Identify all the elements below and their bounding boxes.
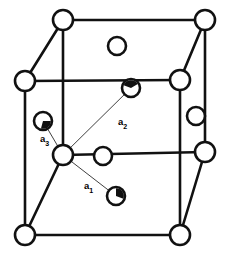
atoms-group: [15, 10, 215, 245]
vector-label-a1: a1: [84, 180, 93, 194]
lattice-vectors-group: [47, 94, 125, 191]
cell-edge-connect-bottom-left: [25, 155, 63, 235]
lattice-diagram: a3 a2 a1: [0, 0, 228, 258]
atom-back-top-left: [53, 10, 73, 30]
lattice-figure: a3 a2 a1: [0, 0, 228, 258]
vector-label-a3: a3: [40, 133, 49, 147]
atom-back-bottom-right: [195, 142, 215, 162]
atom-front-top-right: [170, 70, 190, 90]
atom-front-bottom-left: [15, 225, 35, 245]
atom-back-bottom-left: [53, 145, 73, 165]
atom-front-face-center: [107, 187, 125, 205]
atom-right-face-center: [187, 107, 205, 125]
atom-back-top-right: [195, 10, 215, 30]
lattice-vector-a2: [70, 94, 125, 148]
vector-label-a2: a2: [118, 116, 127, 130]
cell-edge-front-top: [25, 80, 180, 81]
atom-back-face-center: [122, 79, 140, 97]
cell-edge-back-bottom: [63, 152, 205, 155]
atom-front-bottom-right: [170, 225, 190, 245]
atom-left-face-center: [34, 112, 52, 130]
atom-top-face-center: [108, 37, 126, 55]
atom-bottom-face-center: [94, 147, 112, 165]
atom-front-top-left: [15, 71, 35, 91]
cell-edge-connect-bottom-right: [180, 152, 205, 235]
